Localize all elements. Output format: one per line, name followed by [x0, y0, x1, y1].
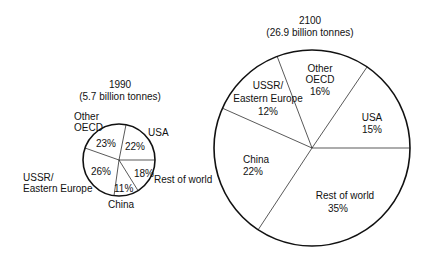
pie-1990-title: 1990 [90, 79, 150, 90]
label-other-oecd-line2: OECD [74, 122, 103, 133]
label-other-oecd-line1: Other [300, 63, 340, 74]
pct-rest-of-world: 18% [134, 168, 154, 179]
label-china: China [108, 199, 134, 210]
label-ussr-line2: Eastern Europe [23, 183, 93, 194]
pie-2100-title: 2100 [280, 15, 340, 26]
label-usa: USA [352, 112, 392, 123]
label-china: China [243, 154, 269, 165]
label-other-oecd-line2: OECD [300, 74, 340, 85]
pct-other-oecd: 23% [96, 138, 116, 149]
pie-2100-subtitle: (26.9 billion tonnes) [260, 27, 360, 38]
pct-ussr: 26% [91, 166, 111, 177]
label-ussr-line1: USSR/ [248, 80, 288, 91]
pct-usa: 15% [352, 124, 392, 135]
label-rest-of-world: Rest of world [310, 190, 380, 201]
label-ussr-line1: USSR/ [23, 172, 54, 183]
pct-rest-of-world: 35% [318, 203, 358, 214]
pct-china: 22% [243, 166, 263, 177]
label-usa: USA [148, 127, 169, 138]
label-ussr-line2: Eastern Europe [228, 93, 308, 104]
label-other-oecd-line1: Other [74, 111, 99, 122]
label-rest-of-world: Rest of world [154, 174, 212, 185]
pie-1990-subtitle: (5.7 billion tonnes) [75, 91, 165, 102]
pct-china: 11% [114, 183, 133, 194]
pct-usa: 22% [125, 141, 145, 152]
pct-ussr: 12% [248, 106, 288, 117]
